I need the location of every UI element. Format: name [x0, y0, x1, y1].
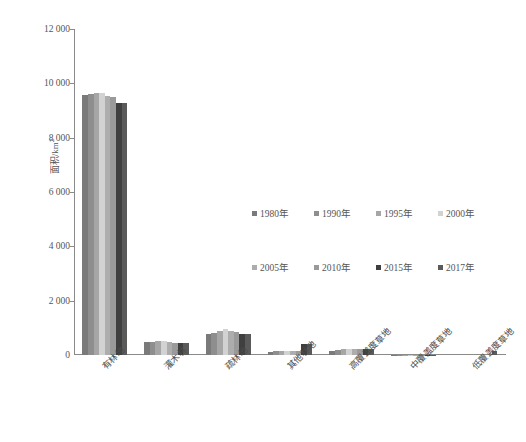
legend-label: 1995年 — [384, 206, 413, 220]
y-axis-tick-label: 8 000 — [24, 133, 70, 143]
bar-group — [206, 29, 251, 355]
legend-label: 1980年 — [260, 206, 289, 220]
bar-group — [82, 29, 127, 355]
y-axis-tick-label: 12 000 — [24, 24, 70, 34]
legend-label: 1990年 — [322, 206, 351, 220]
y-axis-tick-mark — [70, 29, 75, 30]
y-axis-tick-mark — [70, 301, 75, 302]
legend-label: 2015年 — [384, 260, 413, 274]
bar — [122, 103, 128, 355]
legend-label: 2017年 — [446, 260, 475, 274]
legend-swatch-icon — [252, 265, 257, 270]
legend-item[interactable]: 2010年 — [314, 260, 376, 274]
legend-item[interactable]: 1980年 — [252, 206, 314, 220]
legend-item[interactable]: 2015年 — [376, 260, 438, 274]
legend-label: 2000年 — [446, 206, 475, 220]
legend-item[interactable]: 2000年 — [438, 206, 500, 220]
y-axis-tick-label: 4 000 — [24, 241, 70, 251]
bar-group — [144, 29, 189, 355]
legend-row: 1980年1990年1995年2000年 — [252, 206, 500, 220]
legend-swatch-icon — [376, 211, 381, 216]
legend-swatch-icon — [314, 211, 319, 216]
legend-label: 2010年 — [322, 260, 351, 274]
y-axis-tick-label: 10 000 — [24, 78, 70, 88]
y-axis-tick-label: 2 000 — [24, 296, 70, 306]
legend-swatch-icon — [438, 211, 443, 216]
legend-item[interactable]: 2017年 — [438, 260, 500, 274]
legend-row: 2005年2010年2015年2017年 — [252, 260, 500, 274]
chart-legend: 1980年1990年1995年2000年2005年2010年2015年2017年 — [252, 206, 500, 314]
y-axis-tick-mark — [70, 192, 75, 193]
legend-item[interactable]: 1990年 — [314, 206, 376, 220]
bar-chart: 面积/km2 02 0004 0006 0008 00010 00012 000… — [0, 0, 526, 442]
y-axis-tick-mark — [70, 83, 75, 84]
legend-item[interactable]: 1995年 — [376, 206, 438, 220]
legend-item[interactable]: 2005年 — [252, 260, 314, 274]
legend-swatch-icon — [376, 265, 381, 270]
y-axis-tick-label: 6 000 — [24, 187, 70, 197]
y-axis-tick-label: 0 — [24, 350, 70, 360]
y-axis-tick-mark — [70, 246, 75, 247]
y-axis-tick-labels: 02 0004 0006 0008 00010 00012 000 — [22, 0, 70, 442]
legend-label: 2005年 — [260, 260, 289, 274]
legend-swatch-icon — [438, 265, 443, 270]
legend-swatch-icon — [314, 265, 319, 270]
y-axis-tick-mark — [70, 138, 75, 139]
x-axis-tick-labels: 有林地灌木林疏林地其他林地高覆盖度草地中覆盖度草地低覆盖度草地 — [74, 359, 526, 442]
legend-swatch-icon — [252, 211, 257, 216]
